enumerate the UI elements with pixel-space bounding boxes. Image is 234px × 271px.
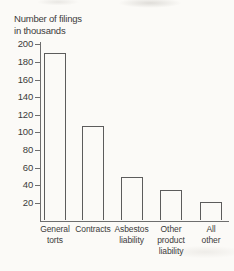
x-axis-line — [40, 221, 229, 222]
bar-general-torts — [44, 53, 66, 220]
y-tick-label: 120 — [9, 110, 33, 120]
y-tick-label: 60 — [9, 163, 33, 173]
y-tick-mark — [35, 115, 40, 116]
category-label: All other — [188, 224, 234, 246]
y-tick-label: 20 — [9, 198, 33, 208]
y-tick-mark — [35, 168, 40, 169]
y-tick-mark — [35, 97, 40, 98]
y-tick-mark — [35, 44, 40, 45]
y-tick-label: 80 — [9, 145, 33, 155]
y-tick-label: 140 — [9, 92, 33, 102]
y-tick-mark — [35, 62, 40, 63]
y-tick-label: 160 — [9, 75, 33, 85]
y-tick-label: 40 — [9, 180, 33, 190]
y-tick-mark — [35, 150, 40, 151]
bar-all-other — [200, 202, 222, 221]
bar-other-product-liability — [160, 190, 182, 221]
plot-area: 20018016014012010080604020General tortsC… — [0, 0, 234, 271]
y-tick-label: 200 — [9, 39, 33, 49]
y-tick-label: 180 — [9, 57, 33, 67]
y-tick-mark — [35, 80, 40, 81]
y-tick-label: 100 — [9, 127, 33, 137]
y-axis-line — [40, 42, 41, 222]
bar-contracts — [82, 126, 104, 220]
bar-asbestos-liability — [121, 177, 143, 220]
scanned-bar-chart-figure: Number of filings in thousands 200180160… — [0, 0, 234, 271]
y-tick-mark — [35, 203, 40, 204]
y-tick-mark — [35, 185, 40, 186]
y-tick-mark — [35, 132, 40, 133]
